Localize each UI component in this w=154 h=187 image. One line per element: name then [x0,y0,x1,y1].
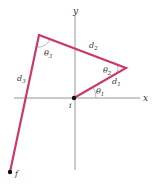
angle-label-theta3: θ3 [44,49,53,59]
segment-label-d1: d1 [112,77,121,87]
x-axis-label: x [143,93,148,103]
segment-label-d2: d2 [89,41,98,51]
diagram-canvas: x y i f d1 d2 d3 θ1 θ2 θ3 [0,0,154,187]
end-point-label: f [14,169,20,178]
y-axis-label: y [72,6,79,16]
displacement-diagram: x y i f d1 d2 d3 θ1 θ2 θ3 [0,0,154,187]
displacement-path [10,35,126,172]
end-point [8,170,12,174]
start-point [72,96,76,100]
start-point-label: i [69,101,72,110]
angle-label-theta2: θ2 [103,66,112,76]
angle-label-theta1: θ1 [96,87,104,97]
segment-label-d3: d3 [17,74,26,84]
